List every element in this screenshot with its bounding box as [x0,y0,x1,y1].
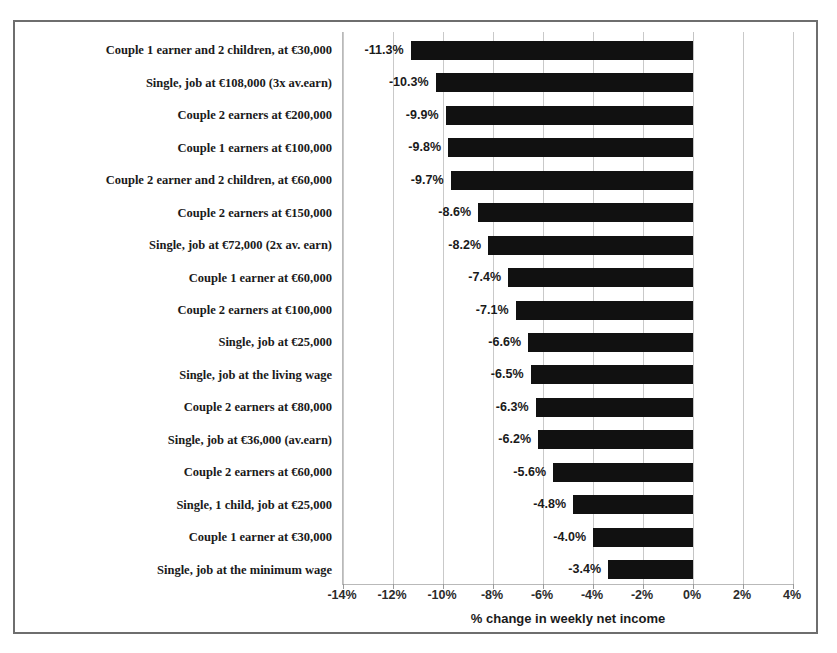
category-label: Single, job at €72,000 (2x av. earn) [21,235,332,255]
bar [508,268,693,287]
gridline--14% [343,32,344,584]
category-label: Couple 2 earners at €200,000 [21,105,332,125]
x-axis-title: % change in weekly net income [342,611,794,626]
x-tick-label: -12% [370,588,414,602]
bar [531,365,694,384]
bar-value-label: -6.6% [461,333,521,352]
category-label: Single, job at €108,000 (3x av.earn) [21,73,332,93]
bar-value-label: -8.6% [411,203,471,222]
x-tick-label: 2% [720,588,764,602]
category-label: Couple 1 earners at €100,000 [21,138,332,158]
x-tick-label: -6% [520,588,564,602]
bar-value-label: -9.8% [381,138,441,157]
bar-value-label: -11.3% [344,41,404,60]
bar [448,138,693,157]
category-label: Single, job at €36,000 (av.earn) [21,430,332,450]
bar [451,171,694,190]
bar-value-label: -6.2% [471,430,531,449]
bar [538,430,693,449]
bar-value-label: -7.1% [449,301,509,320]
gridline--10% [443,32,444,584]
bar [608,560,693,579]
bar-value-label: -9.7% [384,171,444,190]
x-tick-label: -14% [320,588,364,602]
bar [488,236,693,255]
category-label: Single, 1 child, job at €25,000 [21,495,332,515]
bar [528,333,693,352]
bar [446,106,694,125]
bar-chart: Couple 1 earner and 2 children, at €30,0… [0,0,837,653]
gridline-4% [793,32,794,584]
bar-value-label: -4.8% [506,495,566,514]
category-label: Couple 2 earner and 2 children, at €60,0… [21,170,332,190]
bar-value-label: -6.5% [464,365,524,384]
bar-value-label: -10.3% [369,73,429,92]
category-label: Couple 1 earner at €60,000 [21,268,332,288]
bar [516,301,694,320]
bar-value-label: -4.0% [526,528,586,547]
x-tick-label: 0% [670,588,714,602]
category-label: Single, job at the living wage [21,365,332,385]
x-tick-label: -8% [470,588,514,602]
x-tick-label: 4% [770,588,814,602]
gridline-0% [693,32,694,584]
bar [478,203,693,222]
bar [411,41,694,60]
category-label: Couple 2 earners at €100,000 [21,300,332,320]
chart-frame: Couple 1 earner and 2 children, at €30,0… [13,20,818,634]
category-label: Couple 1 earner at €30,000 [21,527,332,547]
chart-title [160,0,700,10]
bar [593,528,693,547]
bar [436,73,694,92]
bar-value-label: -9.9% [379,106,439,125]
bar-value-label: -3.4% [541,560,601,579]
bar-value-label: -6.3% [469,398,529,417]
bar [536,398,694,417]
x-tick-label: -10% [420,588,464,602]
x-tick-label: -2% [620,588,664,602]
bar [573,495,693,514]
category-label: Single, job at the minimum wage [21,560,332,580]
category-label: Couple 1 earner and 2 children, at €30,0… [21,40,332,60]
x-tick-label: -4% [570,588,614,602]
bar-value-label: -8.2% [421,236,481,255]
gridline-2% [743,32,744,584]
bar [553,463,693,482]
category-label: Couple 2 earners at €80,000 [21,397,332,417]
bar-value-label: -7.4% [441,268,501,287]
category-label: Single, job at €25,000 [21,332,332,352]
bar-value-label: -5.6% [486,463,546,482]
category-label: Couple 2 earners at €60,000 [21,462,332,482]
category-label: Couple 2 earners at €150,000 [21,203,332,223]
